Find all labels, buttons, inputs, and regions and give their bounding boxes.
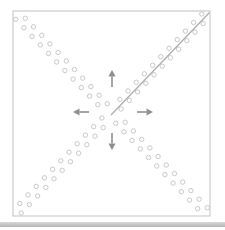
origami-fold-diagram: [0, 0, 225, 230]
fold-diagram-svg: [0, 0, 225, 230]
sheet-outline: [13, 11, 210, 216]
bottom-edge-band: [0, 222, 225, 227]
